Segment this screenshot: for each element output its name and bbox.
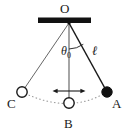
string-to-position-a xyxy=(69,23,107,92)
label-pivot-o: O xyxy=(60,2,69,15)
label-position-b: B xyxy=(64,117,73,130)
pendulum-bob-at-b xyxy=(64,98,74,108)
label-angle-subscript: 0 xyxy=(67,51,71,60)
ceiling-support-bar xyxy=(38,18,91,24)
pendulum-bob-at-a xyxy=(102,87,112,97)
label-position-c: C xyxy=(7,97,16,110)
pendulum-bob-at-c xyxy=(17,87,27,97)
label-angle-theta-zero: θ0 xyxy=(61,45,71,60)
pendulum-figure: O C B A ℓ θ0 xyxy=(0,0,129,133)
label-string-length: ℓ xyxy=(92,44,97,57)
pendulum-diagram-svg xyxy=(0,0,129,133)
label-position-a: A xyxy=(112,97,121,110)
pivot-point-dot xyxy=(67,21,70,24)
